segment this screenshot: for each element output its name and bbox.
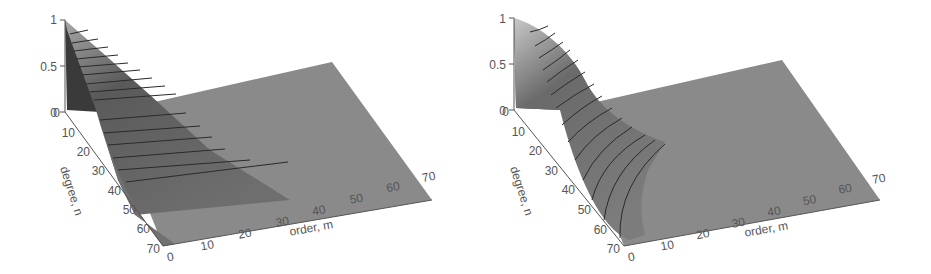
x-tick: 50 [802, 192, 818, 208]
y-axis-label: degree, n [57, 165, 86, 218]
y-tick: 60 [137, 222, 151, 236]
y-tick: 10 [62, 126, 76, 140]
y-tick: 20 [529, 144, 543, 158]
figure-canvas: 1 0.5 0 0 10 20 30 40 50 60 70 degree, n… [0, 0, 931, 274]
y-axis-label: degree, n [507, 165, 536, 218]
x-tick: 20 [237, 226, 253, 242]
y-tick: 0 [53, 106, 60, 120]
z-tick: 0.5 [40, 60, 57, 74]
z-tick: 1 [499, 12, 506, 26]
y-tick: 40 [562, 183, 576, 197]
x-tick: 0 [627, 249, 636, 264]
z-tick: 1 [50, 13, 57, 27]
y-tick: 10 [512, 125, 526, 139]
x-tick: 60 [385, 179, 401, 195]
z-axis-ticks: 1 0.5 0 [40, 13, 65, 120]
y-tick: 50 [123, 203, 137, 217]
surface-plot-left: 1 0.5 0 0 10 20 30 40 50 60 70 degree, n… [40, 13, 442, 264]
x-tick: 0 [166, 249, 175, 264]
z-axis-ticks: 1 0.5 0 [489, 12, 514, 118]
y-tick: 50 [578, 203, 592, 217]
x-tick: 10 [199, 237, 215, 253]
x-tick: 10 [659, 237, 675, 253]
x-tick: 70 [421, 169, 437, 185]
y-tick: 30 [545, 164, 559, 178]
x-tick: 20 [695, 226, 711, 242]
z-tick: 0.5 [489, 58, 506, 72]
x-tick: 40 [766, 203, 782, 219]
y-tick: 0 [502, 105, 509, 119]
y-tick: 30 [92, 164, 106, 178]
y-tick: 70 [607, 242, 621, 256]
y-tick: 60 [594, 223, 608, 237]
x-tick: 70 [871, 171, 887, 187]
surface-plot-right: 1 0.5 0 0 10 20 30 40 50 60 70 degree, n… [489, 12, 893, 264]
x-tick: 40 [311, 202, 327, 218]
x-tick: 60 [837, 181, 853, 197]
y-tick: 40 [108, 184, 122, 198]
y-tick: 20 [77, 145, 91, 159]
x-tick: 50 [349, 191, 365, 207]
y-tick: 70 [147, 242, 161, 256]
